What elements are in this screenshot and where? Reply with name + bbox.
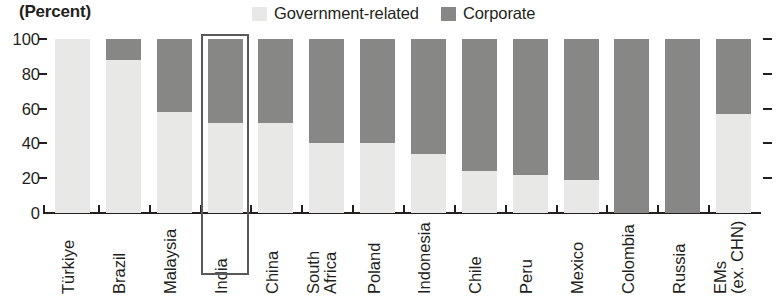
x-axis-label-peru: Peru (510, 216, 550, 296)
bar-segment-government-related (106, 60, 141, 213)
x-axis-label-line: Malaysia (162, 229, 179, 294)
bar-column (513, 39, 548, 213)
bar-segment-government-related (157, 112, 192, 213)
x-axis-label-text: India (213, 258, 230, 294)
x-axis-label-india: India (205, 216, 245, 296)
x-axis-label-line: India (213, 258, 230, 294)
x-axis-label-line: South (305, 251, 322, 294)
x-axis-label-text: China (264, 251, 281, 294)
bar-segment-corporate (309, 39, 344, 143)
bar-segment-government-related (309, 143, 344, 213)
bar-column (716, 39, 751, 213)
bar-column (564, 39, 599, 213)
y-axis-tick-mark-right (763, 142, 772, 144)
x-axis-tick-mark (657, 205, 659, 213)
y-axis-tick-mark-right (763, 73, 772, 75)
bar-segment-corporate (564, 39, 599, 180)
y-axis-tick-label: 0 (0, 204, 40, 223)
bar-column (55, 39, 90, 213)
x-axis-label-line: Africa (322, 251, 339, 294)
bar-segment-government-related (208, 123, 243, 213)
bar-column (360, 39, 395, 213)
y-axis-tick-mark (39, 142, 47, 144)
x-axis-label-line: Mexico (569, 242, 586, 294)
bar-column (462, 39, 497, 213)
legend-entry-corporate: Corporate (441, 4, 535, 23)
bar-segment-government-related (411, 154, 446, 213)
bar-segment-government-related (462, 171, 497, 213)
x-axis-tick-mark (505, 205, 507, 213)
x-axis-label-text: Türkiye (60, 240, 77, 294)
bar-column (258, 39, 293, 213)
bar-segment-corporate (411, 39, 446, 154)
x-axis-label-text: Mexico (569, 242, 586, 294)
x-axis-label-indonesia: Indonesia (408, 216, 448, 296)
bar-segment-corporate (360, 39, 395, 143)
x-axis-label-line: Poland (366, 243, 383, 294)
x-axis-label-text: Colombia (620, 224, 637, 294)
plot-area (47, 39, 759, 213)
x-axis-label-line: Peru (518, 259, 535, 294)
bar-segment-government-related (55, 39, 90, 213)
y-axis-tick-label: 20 (0, 169, 40, 188)
bar-column (309, 39, 344, 213)
y-axis-tick-mark (39, 108, 47, 110)
x-axis-label-text: Malaysia (162, 229, 179, 294)
bar-segment-corporate (614, 39, 649, 213)
legend-label-corporate: Corporate (463, 4, 535, 23)
x-axis-tick-mark (250, 205, 252, 213)
x-axis-label-south-africa: SouthAfrica (307, 216, 347, 296)
x-axis-label-line: EMs (712, 221, 729, 294)
bar-column (157, 39, 192, 213)
bar-segment-corporate (513, 39, 548, 175)
x-axis-label-malaysia: Malaysia (154, 216, 194, 296)
chart-legend: Government-related Corporate (252, 4, 535, 23)
x-axis-label-line: Indonesia (416, 222, 433, 294)
bar-segment-corporate (716, 39, 751, 114)
bar-segment-corporate (157, 39, 192, 112)
bar-column (208, 39, 243, 213)
x-axis-label-text: Brazil (111, 253, 128, 294)
x-axis-label-colombia: Colombia (612, 216, 652, 296)
x-axis-label-poland: Poland (358, 216, 398, 296)
x-axis-tick-mark (454, 205, 456, 213)
x-axis-label-line: Russia (671, 244, 688, 294)
bar-segment-corporate (258, 39, 293, 123)
bar-column (665, 39, 700, 213)
y-axis-tick-label: 80 (0, 64, 40, 83)
bar-segment-government-related (716, 114, 751, 213)
bar-column (411, 39, 446, 213)
y-axis-line-stub (43, 205, 45, 214)
x-axis-label-brazil: Brazil (103, 216, 143, 296)
legend-label-government-related: Government-related (274, 4, 419, 23)
chart-root: (Percent) Government-related Corporate 0… (0, 0, 777, 297)
x-axis-label-line: Türkiye (60, 240, 77, 294)
x-axis-label-china: China (256, 216, 296, 296)
legend-swatch-government-related (252, 7, 267, 21)
y-axis-tick-mark-right (763, 108, 772, 110)
x-axis-label-mexico: Mexico (561, 216, 601, 296)
legend-entry-government-related: Government-related (252, 4, 419, 23)
x-axis-tick-mark (301, 205, 303, 213)
bar-column (106, 39, 141, 213)
x-axis-label-text: Peru (518, 259, 535, 294)
x-axis-tick-mark (403, 205, 405, 213)
x-axis-label-line: China (264, 251, 281, 294)
bar-segment-government-related (513, 175, 548, 213)
x-axis-label-text: SouthAfrica (305, 251, 339, 294)
x-axis-tick-mark (149, 205, 151, 213)
x-axis-tick-mark (352, 205, 354, 213)
bar-column (614, 39, 649, 213)
x-axis-label-ems-ex-chn: EMs(ex. CHN) (714, 216, 754, 296)
x-axis-label-text: Indonesia (416, 222, 433, 294)
bar-segment-government-related (564, 180, 599, 213)
x-axis-label-line: Chile (467, 256, 484, 294)
bar-segment-corporate (106, 39, 141, 60)
x-axis-label-text: EMs(ex. CHN) (712, 221, 746, 294)
x-axis-tick-mark (556, 205, 558, 213)
bar-segment-corporate (665, 39, 700, 213)
y-axis-tick-mark (39, 38, 47, 40)
x-axis-label-line: Brazil (111, 253, 128, 294)
y-axis-tick-label: 100 (0, 30, 40, 49)
x-axis-label-text: Chile (467, 256, 484, 294)
